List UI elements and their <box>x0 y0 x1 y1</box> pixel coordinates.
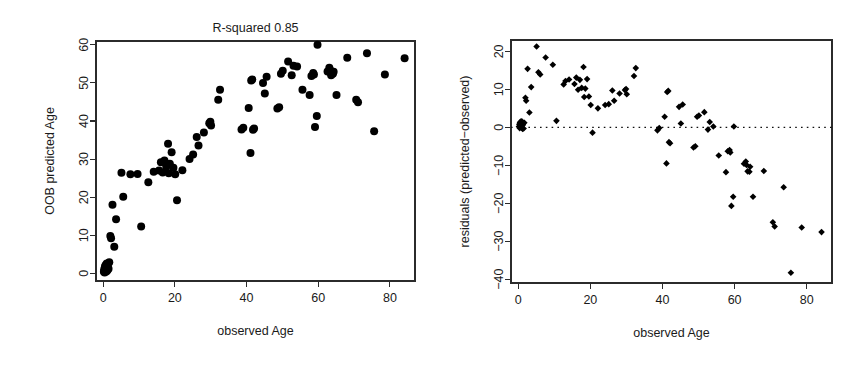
data-point <box>710 123 717 130</box>
x-axis-tick-label: 60 <box>728 293 742 307</box>
x-axis-tick-label: 20 <box>168 291 182 305</box>
data-point <box>550 61 557 68</box>
data-point <box>587 102 594 109</box>
data-point <box>542 54 549 61</box>
data-point <box>216 86 224 94</box>
data-point <box>279 67 287 75</box>
data-point <box>586 93 593 100</box>
data-point <box>207 122 215 130</box>
data-point <box>584 76 591 83</box>
x-axis-tick-label: 0 <box>100 291 107 305</box>
data-point <box>288 71 296 79</box>
data-point <box>401 54 409 62</box>
x-axis-tick-label: 60 <box>311 291 325 305</box>
data-point <box>313 112 321 120</box>
y-axis-tick-label: 50 <box>77 76 91 90</box>
data-point <box>107 234 115 242</box>
x-axis-tick-label: 40 <box>656 293 670 307</box>
x-axis-tick-label: 80 <box>383 291 397 305</box>
scatter-plot-residuals: 020406080−40−30−20−1001020observed Agere… <box>434 0 867 365</box>
x-axis-tick-label: 0 <box>515 293 522 307</box>
data-point <box>526 109 533 116</box>
y-axis-title: OOB predicted Age <box>43 107 57 215</box>
x-axis-tick-label: 40 <box>240 291 254 305</box>
data-point <box>818 229 825 236</box>
figure-container: 0204060800102030405060observed AgeOOB pr… <box>0 0 867 365</box>
y-axis-tick-label: 0 <box>77 270 91 277</box>
data-point <box>553 118 560 125</box>
data-point <box>728 203 735 210</box>
data-point <box>200 128 208 136</box>
data-point <box>134 170 142 178</box>
data-points-group <box>516 43 825 276</box>
data-point <box>750 194 757 201</box>
y-axis-tick-label: −20 <box>492 193 506 214</box>
data-point <box>524 66 531 73</box>
data-point <box>580 64 587 71</box>
data-point <box>112 215 120 223</box>
data-point <box>108 201 116 209</box>
data-point <box>263 73 271 81</box>
data-point <box>306 91 314 99</box>
data-point <box>171 170 179 178</box>
y-axis-title: residuals (predicted−observed) <box>458 76 472 248</box>
data-point <box>595 105 602 112</box>
data-point <box>298 86 306 94</box>
data-point <box>110 243 118 251</box>
data-point <box>137 223 145 231</box>
data-point <box>611 97 618 104</box>
data-point <box>119 193 127 201</box>
data-point <box>798 224 805 231</box>
data-point <box>701 109 708 116</box>
data-point <box>780 184 787 191</box>
data-point <box>631 73 638 80</box>
data-point <box>533 43 540 50</box>
y-axis-tick-label: 60 <box>77 38 91 52</box>
data-point <box>609 87 616 94</box>
y-axis-tick-label: −40 <box>492 269 506 290</box>
panel-residuals: 020406080−40−30−20−1001020observed Agere… <box>434 0 867 365</box>
data-points-group <box>100 41 409 277</box>
data-point <box>178 166 186 174</box>
x-axis-tick-label: 20 <box>583 293 597 307</box>
data-point <box>314 41 322 49</box>
data-point <box>723 169 730 176</box>
data-point <box>173 196 181 204</box>
data-point <box>245 104 253 112</box>
plot-box-frame <box>511 40 832 283</box>
data-point <box>330 68 338 76</box>
data-point <box>589 129 596 136</box>
y-axis-tick-label: 40 <box>77 114 91 128</box>
data-point <box>661 113 668 120</box>
y-axis-tick-label: −10 <box>492 155 506 176</box>
data-point <box>370 127 378 135</box>
y-axis-tick-label: 0 <box>492 124 506 131</box>
y-axis-tick-label: 10 <box>492 82 506 96</box>
data-point <box>571 81 578 88</box>
panel-title: R-squared 0.85 <box>212 21 298 35</box>
data-point <box>363 49 371 57</box>
data-point <box>343 54 351 62</box>
data-point <box>261 90 269 98</box>
data-point <box>354 98 362 106</box>
data-point <box>678 120 685 127</box>
data-point <box>250 125 258 133</box>
panel-observed-vs-predicted: 0204060800102030405060observed AgeOOB pr… <box>0 0 434 365</box>
y-axis-tick-label: 10 <box>77 228 91 242</box>
data-point <box>239 124 247 132</box>
plot-box-frame <box>96 41 415 281</box>
scatter-plot-predicted-age: 0204060800102030405060observed AgeOOB pr… <box>0 0 434 365</box>
data-point <box>731 123 738 130</box>
data-point <box>293 63 301 71</box>
x-axis-tick-label: 80 <box>800 293 814 307</box>
data-point <box>248 75 256 83</box>
data-point <box>144 178 152 186</box>
data-point <box>528 84 535 91</box>
data-point <box>616 90 623 97</box>
y-axis-tick-label: −30 <box>492 231 506 252</box>
y-axis-tick-label: 20 <box>77 190 91 204</box>
data-point <box>311 123 319 131</box>
data-point <box>310 71 318 79</box>
data-point <box>193 133 201 141</box>
data-point <box>164 140 172 148</box>
